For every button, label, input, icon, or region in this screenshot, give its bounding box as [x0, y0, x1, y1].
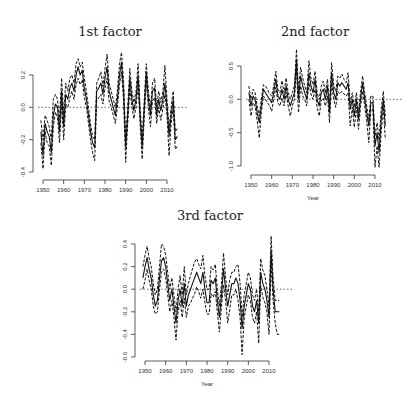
y-tick-label: 0.0	[122, 284, 128, 293]
x-tick-label: 2010	[262, 368, 276, 374]
x-tick-label: 1990	[221, 368, 235, 374]
x-axis-label: Year	[201, 381, 213, 387]
y-tick-label: -0.2	[122, 306, 128, 317]
y-tick-label: 0.4	[122, 239, 128, 248]
x-tick-label: 1950	[138, 368, 152, 374]
chart-3rd-factor: -0.6-0.4-0.20.00.20.41950196019701980199…	[0, 0, 410, 397]
series-upper	[143, 236, 279, 317]
y-tick-label: -0.6	[122, 351, 128, 362]
x-tick-label: 2000	[242, 368, 256, 374]
x-tick-label: 1960	[159, 368, 173, 374]
x-tick-label: 1970	[180, 368, 194, 374]
x-tick-label: 1980	[200, 368, 214, 374]
y-tick-label: 0.2	[122, 262, 128, 271]
y-tick-label: -0.4	[122, 329, 128, 340]
